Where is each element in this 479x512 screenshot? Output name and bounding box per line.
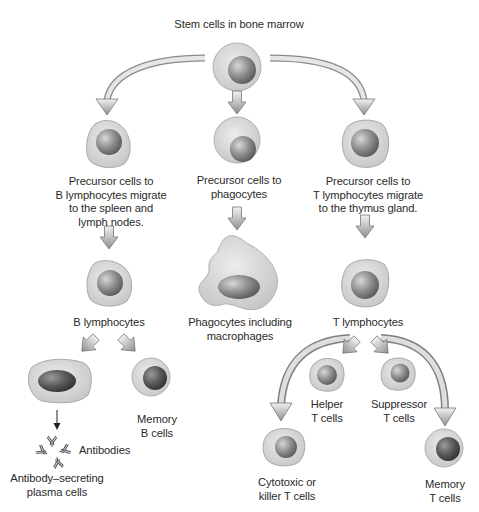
block-arrow-to-plasma-cell [75, 331, 102, 358]
t-lymphocyte-cell [342, 260, 389, 307]
label-plasma-cells: Antibody–secreting plasma cells [10, 472, 103, 499]
stem-cell [213, 43, 261, 91]
t-precursor-cell [342, 120, 388, 167]
label-antibodies: Antibodies [79, 444, 130, 458]
label-t-precursor: Precursor cells to T lymphocytes migrate… [313, 175, 423, 216]
label-t-lymphocytes: T lymphocytes [333, 316, 404, 330]
thin-arrow-to-antibodies [54, 410, 61, 430]
block-arrow-to-phagocytes [228, 207, 246, 230]
helper-t-cell [310, 358, 344, 391]
block-arrow-to-t-lymphocytes [356, 215, 374, 238]
label-cytotoxic-t: Cytotoxic or killer T cells [258, 476, 316, 503]
b-precursor-cell [87, 120, 131, 167]
phago-precursor-cell [214, 117, 260, 163]
macrophage-cell [199, 236, 278, 310]
memory-b-cell [132, 358, 170, 396]
label-b-precursor: Precursor cells to B lymphocytes migrate… [55, 175, 166, 229]
label-memory-b: Memory B cells [137, 413, 177, 440]
antibodies-icon [35, 436, 71, 469]
b-lymphocyte-cell [87, 261, 132, 307]
label-stem-cells: Stem cells in bone marrow [174, 18, 303, 32]
label-helper-t: Helper T cells [311, 398, 343, 425]
immune-cell-lineage-diagram [0, 0, 479, 512]
label-suppressor-t: Suppressor T cells [371, 398, 427, 425]
memory-t-cell [425, 429, 463, 467]
block-arrow-to-b-lymphocytes [100, 226, 118, 249]
curved-arrow-to-b-precursor [96, 58, 205, 115]
label-phagocytes: Phagocytes including macrophages [188, 316, 292, 343]
block-arrow-to-phago-precursor [228, 91, 246, 114]
cytotoxic-t-cell [263, 429, 305, 466]
label-phago-precursor: Precursor cells to phagocytes [197, 174, 282, 201]
label-b-lymphocytes: B lymphocytes [73, 316, 144, 330]
block-arrow-to-memory-b [115, 331, 142, 358]
label-memory-t: Memory T cells [425, 478, 465, 505]
curved-arrow-to-t-precursor [270, 58, 375, 115]
suppressor-t-cell [381, 358, 415, 390]
plasma-cell [28, 359, 91, 402]
